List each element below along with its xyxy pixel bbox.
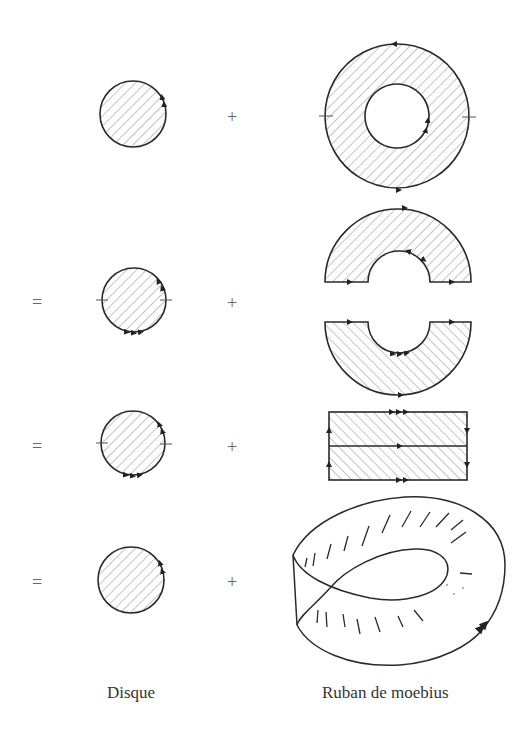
row-1-disk [100, 81, 166, 147]
plus-sign-row-2: + [227, 294, 237, 312]
row-3-disk [96, 411, 172, 476]
row-4-disk [98, 547, 164, 613]
plus-sign-row-4: + [227, 573, 237, 591]
plus-sign-row-3: + [227, 438, 237, 456]
row-2-upper-half-annulus [325, 208, 471, 282]
equals-sign-row-2: = [32, 293, 42, 311]
row-3-split-rectangle [329, 412, 467, 480]
plus-sign-row-1: + [227, 108, 237, 126]
equals-sign-row-3: = [32, 437, 42, 455]
diagram-canvas [0, 0, 531, 735]
equals-sign-row-4: = [32, 573, 42, 591]
row-2-disk [96, 268, 172, 333]
caption-disque: Disque [107, 683, 155, 703]
row-2-lower-half-annulus [325, 322, 471, 395]
row-4-moebius-band [293, 497, 505, 666]
caption-ruban-de-moebius: Ruban de moebius [322, 683, 449, 703]
row-1-annulus [319, 44, 476, 190]
